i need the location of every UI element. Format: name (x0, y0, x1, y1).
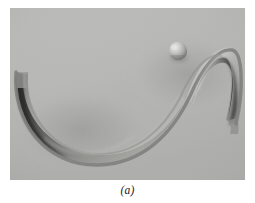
figure-caption-row: (a) (10, 181, 245, 201)
figure-container: (a) (0, 0, 255, 203)
track-photograph (10, 8, 245, 180)
figure-caption-label: (a) (120, 185, 134, 197)
figure-image-plate (10, 8, 245, 180)
photo-vignette (10, 8, 245, 180)
